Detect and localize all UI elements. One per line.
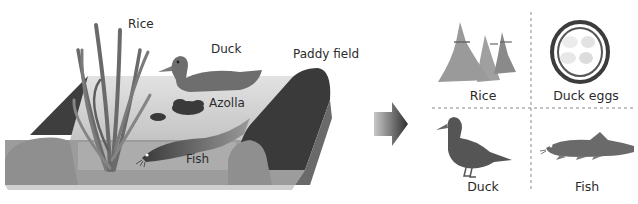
output-label-rice: Rice — [458, 88, 508, 103]
label-duck: Duck — [211, 42, 241, 56]
rice-sheaves-icon — [438, 22, 516, 82]
label-paddy-field: Paddy field — [293, 47, 359, 61]
integrated-rice-duck-fish-diagram — [0, 0, 638, 204]
right-arrow-icon — [374, 102, 408, 146]
duck-icon — [436, 117, 512, 177]
label-azolla: Azolla — [209, 96, 245, 110]
label-rice: Rice — [128, 17, 154, 31]
nest-eggs-icon — [552, 22, 608, 82]
output-label-fish: Fish — [562, 179, 612, 194]
output-label-duck-eggs: Duck eggs — [546, 88, 626, 103]
fish-icon — [540, 132, 634, 160]
output-label-duck: Duck — [458, 179, 508, 194]
paddy-field-illustration — [5, 68, 332, 190]
label-fish: Fish — [186, 152, 209, 166]
